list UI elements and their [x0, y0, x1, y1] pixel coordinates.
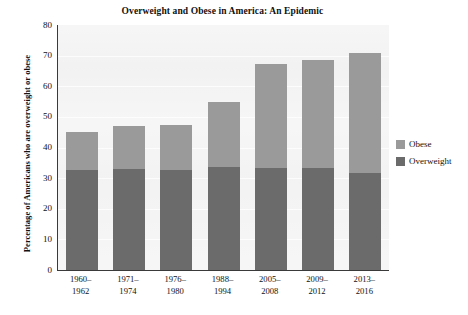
y-axis-tick-label: 80 — [8, 20, 52, 30]
bar-group[interactable] — [160, 125, 192, 270]
x-axis-tick-label: 1960–1962 — [57, 274, 104, 297]
x-axis-tick-label-line1: 1976– — [164, 274, 185, 284]
bar-segment-obese[interactable] — [113, 126, 145, 169]
bar-group[interactable] — [255, 64, 287, 270]
x-axis-tick-label-line1: 2013– — [354, 274, 375, 284]
bar-segment-obese[interactable] — [208, 102, 240, 167]
chart-figure: Overweight and Obese in America: An Epid… — [0, 0, 468, 315]
bar-group[interactable] — [113, 126, 145, 270]
y-axis-tick-label: 0 — [8, 265, 52, 275]
y-axis-tick-label: 60 — [8, 81, 52, 91]
bar-segment-obese[interactable] — [255, 64, 287, 168]
y-axis-tick-label: 20 — [8, 203, 52, 213]
plot-area — [57, 25, 389, 271]
bar-segment-overweight[interactable] — [349, 173, 381, 270]
x-axis-tick-label-line2: 2016 — [341, 286, 388, 298]
legend-item[interactable]: Obese — [396, 137, 466, 152]
bar-segment-obese[interactable] — [66, 132, 98, 170]
x-axis-tick-labels: 1960–19621971–19741976–19801988–19942005… — [57, 274, 388, 310]
bar-group[interactable] — [349, 53, 381, 270]
y-axis-tick-label: 50 — [8, 111, 52, 121]
x-axis-tick-label-line2: 1962 — [57, 286, 104, 298]
bar-group[interactable] — [66, 132, 98, 270]
bar-segment-overweight[interactable] — [302, 168, 334, 270]
x-axis-tick-label-line2: 1994 — [199, 286, 246, 298]
legend-label: Overweight — [409, 156, 452, 167]
legend-swatch-obese — [396, 140, 405, 149]
bar-segment-overweight[interactable] — [160, 170, 192, 270]
bar-segment-overweight[interactable] — [113, 169, 145, 270]
legend-item[interactable]: Overweight — [396, 154, 466, 169]
bar-segment-overweight[interactable] — [208, 167, 240, 271]
x-axis-tick-label-line2: 1974 — [104, 286, 151, 298]
chart-title: Overweight and Obese in America: An Epid… — [57, 5, 388, 17]
x-axis-tick-label-line1: 2009– — [306, 274, 327, 284]
x-axis-tick-label-line2: 2008 — [246, 286, 293, 298]
bar-group[interactable] — [208, 102, 240, 270]
x-axis-tick-label-line1: 1960– — [70, 274, 91, 284]
bar-group[interactable] — [302, 60, 334, 270]
x-axis-tick-label-line1: 1971– — [117, 274, 138, 284]
legend-label: Obese — [409, 139, 432, 150]
y-axis-tick-label: 40 — [8, 142, 52, 152]
chart-legend: ObeseOverweight — [396, 137, 466, 171]
x-axis-tick-label: 1971–1974 — [104, 274, 151, 297]
x-axis-tick-label: 2013–2016 — [341, 274, 388, 297]
x-axis-tick-label-line1: 1988– — [212, 274, 233, 284]
x-axis-tick-label: 1976–1980 — [152, 274, 199, 297]
x-axis-tick-label: 2005–2008 — [246, 274, 293, 297]
y-axis-tick-label: 30 — [8, 173, 52, 183]
x-axis-tick-label-line1: 2005– — [259, 274, 280, 284]
x-axis-tick-label: 1988–1994 — [199, 274, 246, 297]
bar-segment-obese[interactable] — [349, 53, 381, 173]
y-axis-tick-labels: 01020304050607080 — [0, 0, 52, 315]
y-axis-tick-label: 70 — [8, 50, 52, 60]
legend-swatch-overweight — [396, 157, 405, 166]
y-axis-tick-label: 10 — [8, 234, 52, 244]
bars-layer — [58, 25, 389, 270]
x-axis-tick-label-line2: 1980 — [152, 286, 199, 298]
x-axis-tick-label-line2: 2012 — [293, 286, 340, 298]
bar-segment-overweight[interactable] — [255, 168, 287, 270]
x-axis-tick-label: 2009–2012 — [293, 274, 340, 297]
bar-segment-overweight[interactable] — [66, 170, 98, 270]
bar-segment-obese[interactable] — [302, 60, 334, 168]
bar-segment-obese[interactable] — [160, 125, 192, 170]
